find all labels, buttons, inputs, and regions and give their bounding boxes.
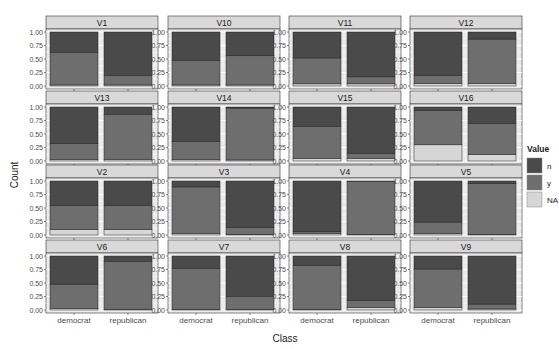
- bar-segment-republican-n: [226, 32, 274, 56]
- y-tick-label: 0.50: [393, 56, 407, 63]
- y-tick-label: 0.75: [272, 117, 286, 124]
- bar-segment-democrat-y: [50, 144, 98, 160]
- facet-label: V6: [97, 242, 108, 252]
- y-tick-label: 0.00: [272, 232, 286, 239]
- facet-label: V5: [461, 167, 472, 177]
- facet-label: V9: [461, 242, 472, 252]
- bar-segment-republican-y: [226, 227, 274, 234]
- bar-segment-republican-n: [104, 107, 152, 115]
- y-tick-label: 0.50: [272, 56, 286, 63]
- bar-segment-republican-n: [347, 107, 395, 153]
- bar-segment-republican-n: [468, 181, 516, 184]
- bar-segment-democrat-n: [50, 181, 98, 205]
- bar-segment-republican-y: [468, 184, 516, 235]
- y-tick-label: 0.75: [393, 191, 407, 198]
- legend-label-n: n: [547, 162, 551, 171]
- bar-segment-democrat-y: [414, 110, 462, 145]
- y-tick-label: 0.00: [272, 83, 286, 90]
- bar-segment-democrat-n: [172, 32, 220, 61]
- bar-segment-republican-y: [347, 77, 395, 84]
- faceted-bar-chart: V10.000.250.500.751.00V100.000.250.500.7…: [0, 0, 559, 349]
- y-tick-label: 0.00: [29, 83, 43, 90]
- facet-label: V3: [219, 167, 230, 177]
- bar-segment-democrat-na: [414, 83, 462, 86]
- bar-segment-democrat-n: [293, 107, 341, 126]
- bar-segment-republican-n: [104, 181, 152, 205]
- y-tick-label: 0.75: [272, 191, 286, 198]
- bar-segment-democrat-y: [293, 58, 341, 84]
- facet-label: V13: [94, 93, 109, 103]
- bar-segment-democrat-n: [172, 181, 220, 187]
- bar-segment-republican-na: [468, 155, 516, 161]
- y-tick-label: 0.25: [151, 144, 165, 151]
- y-tick-label: 0.75: [151, 117, 165, 124]
- y-tick-label: 0.25: [393, 144, 407, 151]
- bar-segment-democrat-y: [414, 269, 462, 307]
- x-tick-label: democrat: [300, 316, 334, 325]
- bar-segment-republican-y: [347, 300, 395, 307]
- y-tick-label: 0.50: [29, 56, 43, 63]
- bar-segment-republican-y: [226, 297, 274, 310]
- legend-label-y: y: [547, 179, 551, 188]
- bar-segment-democrat-y: [414, 75, 462, 83]
- y-tick-label: 0.75: [29, 42, 43, 49]
- bar-segment-republican-y: [347, 153, 395, 158]
- bar-segment-republican-na: [347, 84, 395, 86]
- bar-segment-republican-n: [226, 256, 274, 297]
- y-tick-label: 0.00: [151, 158, 165, 165]
- y-tick-label: 0.00: [393, 158, 407, 165]
- y-tick-label: 0.00: [29, 158, 43, 165]
- y-tick-label: 0.00: [151, 307, 165, 314]
- bar-segment-republican-n: [226, 181, 274, 227]
- bar-segment-republican-n: [104, 32, 152, 76]
- bar-segment-republican-y: [104, 115, 152, 160]
- y-tick-label: 0.75: [29, 191, 43, 198]
- bar-segment-republican-n: [347, 256, 395, 300]
- bar-segment-republican-y: [347, 182, 395, 235]
- y-tick-label: 1.00: [272, 29, 286, 36]
- x-tick-label: republican: [110, 316, 147, 325]
- y-tick-label: 0.50: [29, 280, 43, 287]
- y-tick-label: 1.00: [29, 104, 43, 111]
- y-tick-label: 0.25: [29, 218, 43, 225]
- facet-label: V15: [337, 93, 352, 103]
- legend-label-na: NA: [547, 196, 559, 205]
- facet-label: V8: [340, 242, 351, 252]
- y-tick-label: 0.50: [393, 131, 407, 138]
- bar-segment-democrat-n: [50, 32, 98, 53]
- y-tick-label: 1.00: [151, 253, 165, 260]
- bar-segment-republican-na: [468, 83, 516, 86]
- y-tick-label: 0.75: [393, 117, 407, 124]
- y-tick-label: 1.00: [29, 253, 43, 260]
- facet-label: V1: [97, 18, 108, 28]
- bar-segment-democrat-n: [50, 107, 98, 144]
- bar-segment-democrat-n: [50, 256, 98, 284]
- y-tick-label: 0.75: [393, 266, 407, 273]
- bar-segment-democrat-y: [172, 61, 220, 85]
- bar-segment-democrat-na: [414, 145, 462, 161]
- y-tick-label: 0.75: [29, 117, 43, 124]
- y-tick-label: 1.00: [151, 29, 165, 36]
- y-tick-label: 0.50: [393, 205, 407, 212]
- y-tick-label: 0.00: [151, 83, 165, 90]
- legend-swatch-na: [527, 192, 542, 207]
- y-tick-label: 0.00: [151, 232, 165, 239]
- y-tick-label: 0.50: [151, 205, 165, 212]
- y-tick-label: 1.00: [29, 29, 43, 36]
- y-tick-label: 0.50: [29, 131, 43, 138]
- bar-segment-democrat-n: [414, 32, 462, 75]
- bar-segment-democrat-y: [172, 187, 220, 233]
- bar-segment-republican-n: [347, 32, 395, 77]
- y-tick-label: 0.25: [151, 218, 165, 225]
- bar-segment-democrat-n: [414, 256, 462, 269]
- y-tick-label: 0.00: [393, 83, 407, 90]
- facet-label: V7: [219, 242, 230, 252]
- bar-segment-democrat-na: [50, 230, 98, 235]
- x-tick-label: republican: [474, 316, 511, 325]
- facet-label: V11: [338, 18, 353, 28]
- x-tick-label: democrat: [57, 316, 91, 325]
- facet-label: V10: [216, 18, 231, 28]
- bar-segment-democrat-na: [293, 84, 341, 86]
- x-tick-label: democrat: [179, 316, 213, 325]
- bar-segment-democrat-na: [293, 158, 341, 161]
